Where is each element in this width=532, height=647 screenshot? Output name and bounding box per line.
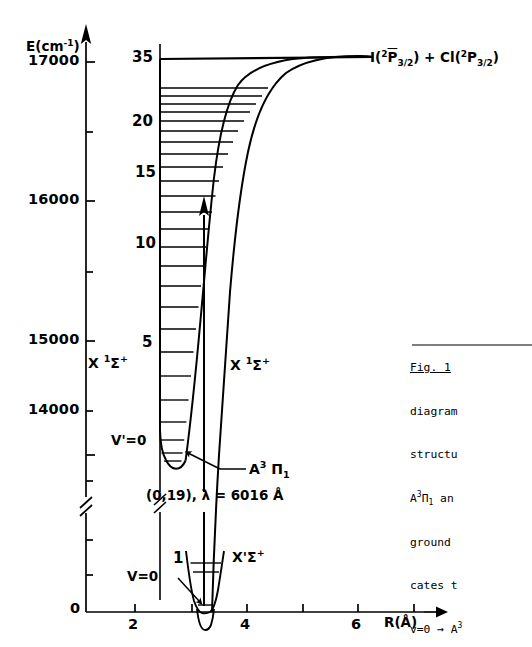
vib-tick-10: 10: [135, 234, 156, 252]
energy-tick-16000: 16000: [28, 191, 79, 207]
ground-state-letter: X': [232, 549, 247, 565]
energy-tick-17000: 17000: [28, 52, 79, 68]
left-ground-state-greek: Σ: [110, 355, 120, 371]
x-state-label: X 1Σ+: [230, 357, 270, 373]
energy-axis: [80, 24, 95, 612]
dissociation-atom-1: I: [370, 49, 375, 65]
figure-potential-energy-diagram: E(cm-1) 17000 16000 15000 14000 0 35 20 …: [0, 0, 532, 647]
ground-state-charge: +: [257, 547, 265, 558]
a-state-letter: A: [249, 461, 260, 477]
figure-caption: Fig. 1 diagram structu A3Π1 an ground ca…: [410, 332, 532, 647]
a-state-omega: 1: [283, 469, 290, 480]
energy-axis-arrowhead: [81, 24, 91, 44]
energy-tick-14000: 14000: [28, 401, 79, 417]
dissociation-atom-2-j: 3/2: [477, 58, 493, 68]
distance-tick-2: 2: [128, 616, 138, 632]
dissociation-plus: +: [424, 49, 435, 65]
excited-state-outer-branch: [186, 57, 372, 461]
distance-axis-ticks: [135, 604, 414, 612]
energy-tick-0: 0: [70, 600, 80, 616]
left-ground-state-charge: +: [120, 353, 128, 364]
x-state-greek: Σ: [252, 357, 262, 373]
caption-line: cates t: [410, 579, 532, 594]
left-ground-state-label: X 1Σ+: [88, 355, 128, 371]
distance-tick-6: 6: [351, 616, 361, 632]
dissociation-atom-1-j: 3/2: [397, 58, 413, 68]
transition-annotation: (0,19), λ = 6016 Å: [146, 487, 283, 503]
transition-arrowhead: [199, 196, 209, 216]
caption-line: ground: [410, 536, 532, 551]
dissociation-atom-2-term: P: [467, 49, 477, 65]
x-state-letter: X: [230, 357, 241, 373]
a-state-multiplicity: 3: [260, 459, 267, 470]
x-state-charge: +: [262, 355, 270, 366]
left-ground-state-letter: X: [88, 355, 99, 371]
caption-line: diagram: [410, 405, 532, 420]
caption-line-a-state: A3Π1 an: [410, 492, 532, 507]
energy-tick-15000: 15000: [28, 331, 79, 347]
distance-tick-4: 4: [240, 616, 250, 632]
caption-line: structu: [410, 448, 532, 463]
x-state-outer-branch: [212, 56, 372, 612]
vib-tick-15: 15: [135, 163, 156, 181]
caption-title-text: Fig. 1: [410, 361, 451, 374]
dissociation-atom-1-term: P: [387, 49, 397, 65]
a-state-label: A3 Π1: [249, 461, 290, 477]
caption-title: Fig. 1: [410, 361, 532, 376]
a-state-greek: Π: [271, 461, 283, 477]
leader-line-a-state: [188, 453, 246, 469]
caption-line-transition: v=0 → A3: [410, 623, 532, 638]
ground-level-1-label: 1: [173, 549, 183, 567]
excited-state-vibrational-levels: [161, 88, 268, 461]
ground-level-0-label: V=0: [127, 568, 158, 584]
vib-zero-label: V'=0: [111, 432, 146, 448]
ground-state-label: X'Σ+: [232, 549, 265, 565]
vib-tick-35: 35: [132, 48, 153, 66]
vib-tick-20: 20: [132, 112, 153, 130]
ground-state-greek: Σ: [247, 549, 257, 565]
leader-line-v0: [178, 578, 200, 602]
vib-tick-5: 5: [142, 333, 152, 351]
dissociation-limit-label: I(2P3/2) + Cl(2P3/2): [370, 49, 499, 65]
dissociation-atom-2: Cl: [440, 49, 455, 65]
transition-arrow: [199, 196, 209, 606]
